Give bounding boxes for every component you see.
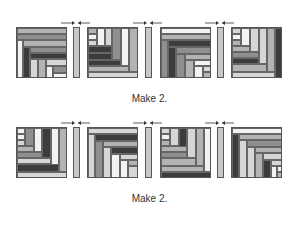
fabric-strip: [59, 128, 67, 172]
fabric-strip: [161, 40, 168, 78]
pressing-arrows-icon: [133, 20, 163, 26]
fabric-strip: [194, 66, 203, 78]
fabric-strip: [247, 140, 282, 147]
pressing-arrows-icon: [205, 120, 235, 126]
fabric-strip: [259, 28, 267, 64]
log-cabin-block-8: [231, 127, 282, 178]
sashing-strip: [145, 27, 152, 78]
fabric-strip: [23, 40, 67, 47]
fabric-strip: [250, 28, 259, 52]
fabric-strip: [46, 66, 53, 78]
fabric-strip: [34, 128, 42, 152]
fabric-strip: [112, 28, 121, 60]
fabric-strip: [17, 172, 67, 178]
log-cabin-block-6: [87, 127, 138, 178]
fabric-strip: [247, 147, 255, 178]
fabric-strip: [263, 153, 282, 160]
fabric-strip: [277, 172, 282, 178]
fabric-strip: [103, 147, 111, 178]
fabric-strip: [161, 158, 196, 166]
fabric-strip: [88, 72, 138, 78]
fabric-strip: [176, 54, 185, 78]
make-count-caption: Make 2.: [0, 193, 299, 204]
log-cabin-block-4: [231, 27, 282, 78]
fabric-strip: [88, 134, 95, 178]
sashing-strip: [145, 127, 152, 178]
fabric-strip: [53, 66, 67, 73]
log-cabin-block-1: [16, 27, 67, 78]
sashing-strip: [217, 127, 224, 178]
sashing-strip: [217, 27, 224, 78]
sashing-strip: [73, 27, 80, 78]
log-cabin-block-5: [16, 127, 67, 178]
pressing-arrows-icon: [133, 120, 163, 126]
fabric-strip: [185, 60, 194, 78]
fabric-strip: [232, 72, 275, 78]
fabric-strip: [239, 140, 247, 178]
fabric-strip: [53, 73, 67, 78]
fabric-strip: [120, 160, 128, 178]
pressing-arrows-icon: [61, 120, 91, 126]
fabric-strip: [42, 128, 51, 158]
pressing-arrows-icon: [61, 20, 91, 26]
fabric-strip: [97, 28, 105, 46]
fabric-strip: [263, 160, 271, 178]
fabric-strip: [111, 154, 120, 178]
fabric-strip: [30, 59, 38, 78]
fabric-strip: [267, 28, 275, 72]
fabric-strip: [168, 40, 211, 47]
fabric-strip: [95, 134, 138, 141]
fabric-strip: [196, 128, 204, 166]
fabric-strip: [95, 141, 103, 178]
fabric-strip: [255, 153, 263, 178]
log-cabin-block-7: [160, 127, 211, 178]
make-count-caption: Make 2.: [0, 93, 299, 104]
fabric-strip: [129, 28, 138, 72]
log-cabin-block-2: [87, 27, 138, 78]
fabric-strip: [23, 47, 30, 78]
fabric-strip: [187, 128, 196, 158]
log-cabin-block-3: [160, 27, 211, 78]
fabric-strip: [25, 128, 34, 146]
fabric-strip: [176, 47, 211, 54]
fabric-strip: [232, 64, 267, 72]
fabric-strip: [161, 172, 211, 178]
fabric-strip: [88, 53, 112, 60]
fabric-strip: [170, 128, 179, 146]
fabric-strip: [88, 46, 112, 53]
fabric-strip: [168, 47, 176, 78]
fabric-strip: [241, 28, 250, 46]
fabric-strip: [232, 134, 239, 178]
fabric-strip: [111, 147, 138, 154]
pressing-arrows-icon: [205, 20, 235, 26]
fabric-strip: [121, 28, 129, 66]
fabric-strip: [275, 28, 282, 78]
fabric-strip: [17, 164, 59, 172]
fabric-strip: [203, 72, 211, 78]
fabric-strip: [105, 28, 112, 46]
fabric-strip: [204, 128, 211, 172]
fabric-strip: [38, 59, 46, 78]
fabric-strip: [128, 166, 138, 178]
sashing-strip: [73, 127, 80, 178]
fabric-strip: [46, 59, 67, 66]
